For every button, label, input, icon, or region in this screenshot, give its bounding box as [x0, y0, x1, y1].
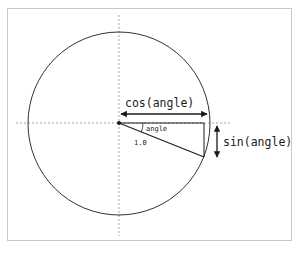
unit-circle-diagram: cos(angle) sin(angle) angle 1.0 [0, 0, 296, 257]
cos-label: cos(angle) [125, 96, 194, 110]
center-point [117, 121, 121, 125]
sin-label: sin(angle) [223, 135, 292, 149]
angle-arc [141, 123, 143, 132]
angle-label: angle [146, 125, 167, 133]
radius-label: 1.0 [134, 139, 147, 147]
